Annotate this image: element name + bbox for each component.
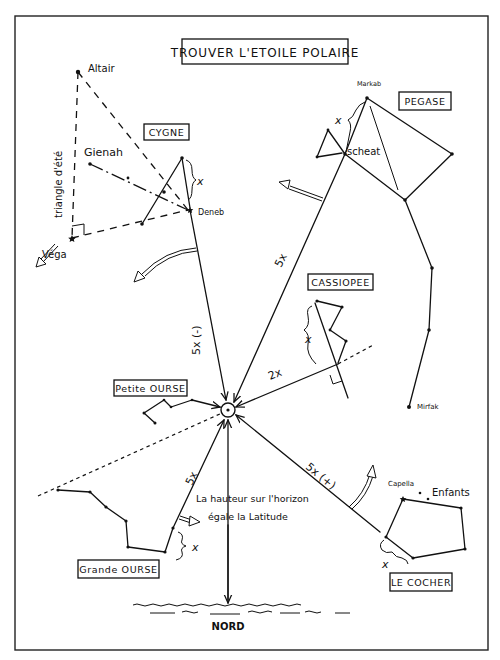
star-label-mirfak: Mirfak: [417, 403, 440, 411]
cygne-distance-label: 5x (-): [190, 325, 203, 355]
grande-ourse-rotation-arrow-icon: [179, 516, 200, 526]
cygne-constellation: [88, 156, 196, 226]
le-cocher-label-box: LE COCHER: [390, 573, 452, 591]
star-icon-altair: [76, 70, 80, 74]
le-cocher-constellation: [380, 492, 466, 564]
petite-ourse-constellation: [143, 399, 221, 425]
pegase-label: PEGASE: [404, 96, 445, 107]
cassiopee-x-label: x: [304, 333, 312, 346]
star-label-deneb: Deneb: [198, 208, 224, 217]
polaris-finder-diagram: TROUVER L'ETOILE POLAIRE Altair triangle…: [0, 0, 500, 660]
nord-label: NORD: [212, 621, 245, 632]
pegase-label-box: PEGASE: [399, 92, 451, 110]
pegase-x-label: x: [334, 114, 342, 127]
star-label-gienah: Gienah: [84, 146, 123, 159]
star-label-capella: Capella: [388, 480, 414, 488]
cassiopee-to-polaris-line: [236, 364, 338, 407]
le-cocher-x-label: x: [381, 558, 389, 571]
cygne-label: CYGNE: [149, 127, 185, 138]
horizon-waves: [133, 604, 350, 614]
grande-ourse-label-box: Grande OURSE: [78, 560, 159, 578]
star-label-enfants: Enfants: [432, 487, 470, 498]
grande-ourse-label: Grande OURSE: [79, 564, 157, 575]
pegase-constellation: [316, 96, 454, 409]
cassiopee-label: CASSIOPEE: [311, 277, 370, 288]
page-frame: [15, 16, 488, 650]
pegase-distance-label: 5x: [272, 251, 290, 269]
deneb-to-polaris-line: [190, 210, 226, 400]
triangle-ete-label: triangle d'été: [53, 151, 64, 218]
star-label-altair: Altair: [88, 63, 115, 74]
hauteur-label-line1: La hauteur sur l'horizon: [196, 493, 309, 504]
cygne-rotation-arrow-icon: [134, 248, 197, 282]
pegase-rotation-arrow-icon: [279, 180, 323, 201]
cygne-x-label: x: [196, 175, 204, 188]
grande-ourse-constellation: [56, 488, 186, 560]
grande-ourse-x-label: x: [191, 541, 199, 554]
title-box: TROUVER L'ETOILE POLAIRE: [170, 39, 359, 64]
page-title: TROUVER L'ETOILE POLAIRE: [170, 46, 359, 60]
le-cocher-label: LE COCHER: [391, 577, 451, 588]
cocher-distance-label: 5x (+): [303, 460, 338, 492]
cocher-rotation-arrow-icon: [349, 465, 376, 509]
polaris-marker: [221, 403, 235, 417]
petite-ourse-label: Petite OURSE: [115, 383, 185, 394]
cygne-label-box: CYGNE: [144, 124, 189, 140]
hauteur-label-line2: égale la Latitude: [208, 511, 288, 522]
cassiopee-constellation: [304, 299, 375, 398]
cassiopee-distance-label: 2x: [266, 365, 284, 382]
star-icon-vega: [68, 235, 76, 242]
petite-ourse-label-box: Petite OURSE: [114, 380, 187, 396]
star-label-scheat: scheat: [347, 146, 380, 157]
grande-ourse-distance-label: 5x: [183, 469, 201, 487]
cassiopee-label-box: CASSIOPEE: [308, 274, 373, 290]
star-label-markab: Markab: [357, 80, 381, 88]
